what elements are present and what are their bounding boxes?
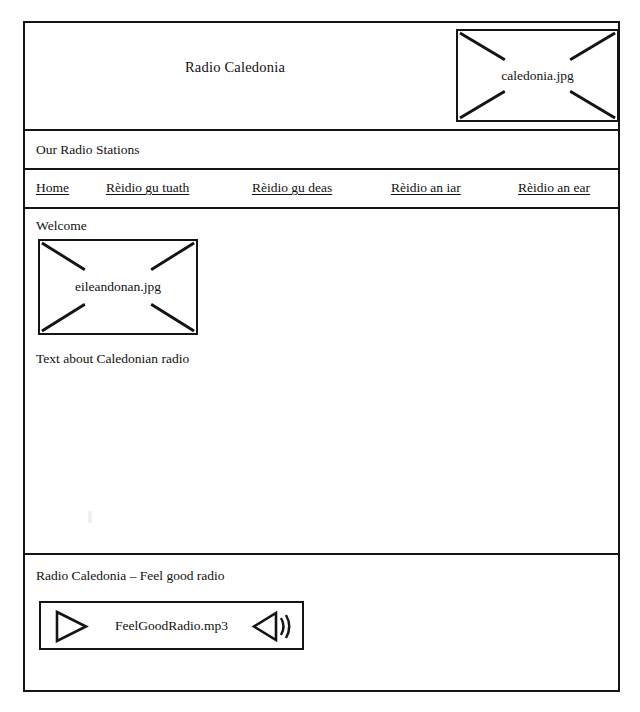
header-image-placeholder: caledonia.jpg xyxy=(456,29,619,122)
nav-item-reidio-an-ear[interactable]: Rèidio an ear xyxy=(518,180,590,196)
stations-bar-label: Our Radio Stations xyxy=(36,142,140,158)
content-body-text: Text about Caledonian radio xyxy=(36,351,189,367)
header-band: Radio Caledonia caledonia.jpg xyxy=(25,23,618,131)
footer-tagline: Radio Caledonia – Feel good radio xyxy=(36,568,225,584)
speaker-volume-icon xyxy=(251,611,295,642)
volume-button[interactable] xyxy=(251,611,295,642)
nav-item-reidio-gu-deas[interactable]: Rèidio gu deas xyxy=(252,180,332,196)
nav-item-reidio-an-iar[interactable]: Rèidio an iar xyxy=(391,180,461,196)
scan-artifact xyxy=(88,511,92,523)
content-image-label: eileandonan.jpg xyxy=(40,279,196,295)
nav-item-reidio-gu-tuath[interactable]: Rèidio gu tuath xyxy=(106,180,189,196)
navigation-bar: Home Rèidio gu tuath Rèidio gu deas Rèid… xyxy=(25,170,618,209)
nav-item-home[interactable]: Home xyxy=(36,180,69,196)
footer-area: Radio Caledonia – Feel good radio FeelGo… xyxy=(25,555,618,690)
header-image-label: caledonia.jpg xyxy=(458,68,617,84)
wireframe-page-frame: Radio Caledonia caledonia.jpg Our Radio … xyxy=(23,21,620,692)
stations-bar: Our Radio Stations xyxy=(25,131,618,170)
content-image-placeholder: eileandonan.jpg xyxy=(38,239,198,335)
audio-player[interactable]: FeelGoodRadio.mp3 xyxy=(39,601,304,650)
main-content-area: Welcome eileandonan.jpg Text about Caled… xyxy=(25,209,618,555)
content-heading: Welcome xyxy=(36,218,87,234)
page-title: Radio Caledonia xyxy=(25,59,445,76)
